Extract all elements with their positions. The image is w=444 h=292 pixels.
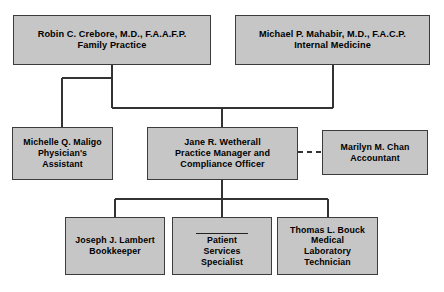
org-node-chan[interactable]: Marilyn M. Chan Accountant xyxy=(322,130,428,175)
org-node-lambert-role: Bookkeeper xyxy=(89,246,140,257)
org-node-bouck[interactable]: Thomas L. Bouck Medical Laboratory Techn… xyxy=(277,217,378,275)
org-node-crebore-role: Family Practice xyxy=(78,40,147,51)
org-node-chan-role: Accountant xyxy=(350,153,399,164)
org-node-crebore[interactable]: Robin C. Crebore, M.D., F.A.A.F.P. Famil… xyxy=(13,15,211,65)
org-node-bouck-role-line3: Technician xyxy=(304,257,350,268)
org-node-patient-services-role-line2: Services xyxy=(204,246,241,257)
org-node-maligo-name: Michelle Q. Maligo xyxy=(23,137,102,148)
org-node-wetherall-role-line1: Practice Manager and xyxy=(175,148,270,159)
org-chart: Robin C. Crebore, M.D., F.A.A.F.P. Famil… xyxy=(0,0,444,292)
org-node-mahabir-name: Michael P. Mahabir, M.D., F.A.C.P. xyxy=(259,29,406,40)
org-node-bouck-role-line1: Medical xyxy=(311,235,344,246)
org-node-bouck-role-line2: Laboratory xyxy=(304,246,351,257)
org-node-lambert-name: Joseph J. Lambert xyxy=(75,235,154,246)
org-node-patient-services-blank-name-line xyxy=(196,224,248,234)
org-node-wetherall[interactable]: Jane R. Wetherall Practice Manager and C… xyxy=(147,127,298,180)
org-node-wetherall-name: Jane R. Wetherall xyxy=(184,137,261,148)
org-node-mahabir[interactable]: Michael P. Mahabir, M.D., F.A.C.P. Inter… xyxy=(235,15,430,65)
org-node-wetherall-role-line2: Compliance Officer xyxy=(180,159,264,170)
org-node-crebore-name: Robin C. Crebore, M.D., F.A.A.F.P. xyxy=(38,29,187,40)
org-node-patient-services-role-line1: Patient xyxy=(207,235,237,246)
org-node-maligo-role-line2: Assistant xyxy=(42,159,83,170)
org-node-lambert[interactable]: Joseph J. Lambert Bookkeeper xyxy=(65,217,165,275)
org-node-maligo[interactable]: Michelle Q. Maligo Physician's Assistant xyxy=(12,127,113,180)
org-node-patient-services[interactable]: Patient Services Specialist xyxy=(172,217,272,275)
org-node-mahabir-role: Internal Medicine xyxy=(294,40,371,51)
org-node-patient-services-role-line3: Specialist xyxy=(201,257,243,268)
org-node-bouck-name: Thomas L. Bouck xyxy=(290,225,365,236)
org-node-maligo-role-line1: Physician's xyxy=(38,148,87,159)
org-node-chan-name: Marilyn M. Chan xyxy=(341,142,410,153)
